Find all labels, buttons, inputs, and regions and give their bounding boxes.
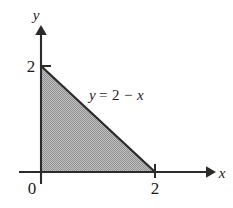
equation-lhs: y bbox=[87, 87, 96, 103]
y-axis-arrow-icon bbox=[35, 25, 47, 35]
equation-constant: 2 bbox=[112, 87, 120, 103]
figure-canvas: y x 2 2 0 y = 2 − x bbox=[0, 0, 233, 208]
x-tick-label-2: 2 bbox=[151, 179, 160, 198]
y-axis-label: y bbox=[31, 7, 40, 23]
equation-annotation: y = 2 − x bbox=[87, 87, 144, 103]
y-tick-label-2: 2 bbox=[27, 57, 36, 76]
x-axis-arrow-icon bbox=[206, 166, 216, 178]
equation-minus-sign: − bbox=[124, 87, 132, 103]
graph-svg: y x 2 2 0 y = 2 − x bbox=[0, 0, 233, 208]
equation-equals-sign: = bbox=[99, 87, 107, 103]
equation-rhs-variable: x bbox=[136, 87, 144, 103]
x-axis-label: x bbox=[218, 165, 226, 181]
origin-label: 0 bbox=[28, 179, 37, 198]
